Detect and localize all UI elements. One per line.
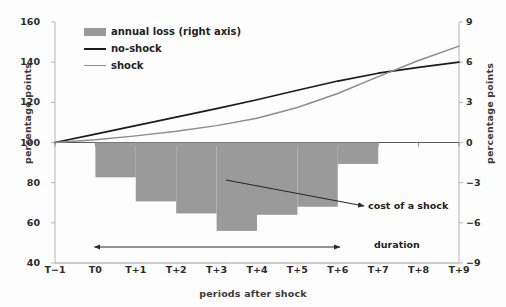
bar bbox=[176, 143, 216, 214]
legend-item: shock bbox=[84, 58, 241, 73]
legend-label: no-shock bbox=[111, 43, 162, 54]
annotation-duration: duration bbox=[374, 239, 420, 250]
legend-line-icon bbox=[84, 65, 106, 66]
legend-item: annual loss (right axis) bbox=[84, 24, 241, 39]
bar bbox=[257, 143, 297, 215]
legend-line-icon bbox=[84, 48, 106, 50]
bar bbox=[95, 143, 135, 178]
chart-figure: percentage points percentage points peri… bbox=[0, 0, 506, 307]
bar bbox=[338, 143, 378, 164]
plot-area bbox=[0, 0, 506, 307]
bar bbox=[136, 143, 176, 202]
legend-label: annual loss (right axis) bbox=[111, 26, 241, 37]
bar-series-annual-loss bbox=[95, 143, 378, 231]
annotation-cost-of-a-shock: cost of a shock bbox=[368, 200, 448, 211]
legend-item: no-shock bbox=[84, 41, 241, 56]
legend-label: shock bbox=[111, 60, 144, 71]
legend-swatch-icon bbox=[84, 28, 106, 36]
legend: annual loss (right axis)no-shockshock bbox=[84, 24, 241, 75]
bar bbox=[217, 143, 257, 231]
